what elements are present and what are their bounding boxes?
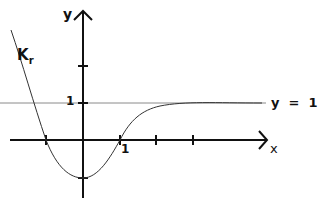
x-tick-label-1: 1 bbox=[121, 142, 129, 156]
curve-kr bbox=[11, 30, 262, 178]
y-tick-label-1: 1 bbox=[66, 94, 74, 108]
curve-label: Kr bbox=[17, 46, 34, 66]
y-axis-label: y bbox=[63, 6, 72, 22]
x-axis-label: x bbox=[270, 141, 278, 156]
asymptote-label: y = 1 bbox=[271, 95, 318, 110]
